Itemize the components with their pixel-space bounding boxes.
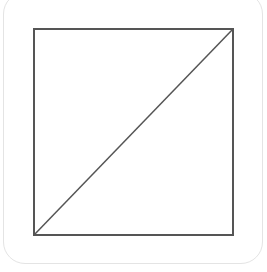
diagonal-line [34,29,233,235]
square-diagram [0,0,267,272]
